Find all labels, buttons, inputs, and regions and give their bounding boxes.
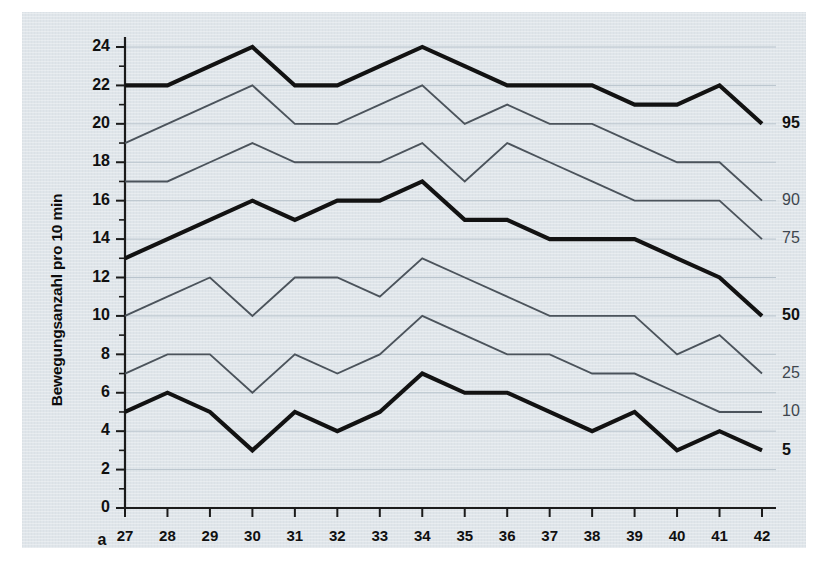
x-tick-label-41: 41 xyxy=(711,527,728,544)
x-tick-label-31: 31 xyxy=(287,527,304,544)
y-tick-label-2: 2 xyxy=(101,460,110,477)
y-tick-label-4: 4 xyxy=(101,421,110,438)
x-tick-label-40: 40 xyxy=(669,527,686,544)
series-line-p10 xyxy=(125,316,762,412)
axis-lines xyxy=(125,37,776,508)
x-axis-ticks xyxy=(125,508,762,517)
series-label-p75: 75 xyxy=(782,229,800,246)
series-line-p5 xyxy=(125,374,762,451)
x-tick-label-30: 30 xyxy=(244,527,261,544)
x-tick-label-29: 29 xyxy=(202,527,219,544)
y-tick-label-22: 22 xyxy=(92,76,110,93)
x-tick-label-38: 38 xyxy=(584,527,601,544)
series-labels: 9590755025105 xyxy=(782,114,800,458)
y-tick-label-6: 6 xyxy=(101,383,110,400)
y-axis-ticks xyxy=(116,47,125,508)
x-tick-label-35: 35 xyxy=(456,527,473,544)
series-label-p5: 5 xyxy=(782,441,791,458)
x-tick-labels: 27282930313233343536373839404142 xyxy=(117,527,771,544)
y-axis-title: Bewegungsanzahl pro 10 min xyxy=(48,194,65,407)
x-tick-label-32: 32 xyxy=(329,527,346,544)
x-tick-label-28: 28 xyxy=(159,527,176,544)
series-label-p50: 50 xyxy=(782,306,800,323)
axes xyxy=(125,37,776,508)
series-label-p90: 90 xyxy=(782,191,800,208)
y-tick-label-10: 10 xyxy=(92,306,110,323)
y-tick-label-12: 12 xyxy=(92,268,110,285)
series-label-p10: 10 xyxy=(782,402,800,419)
x-tick-label-39: 39 xyxy=(626,527,643,544)
y-tick-label-0: 0 xyxy=(101,498,110,515)
x-tick-label-33: 33 xyxy=(371,527,388,544)
y-tick-label-14: 14 xyxy=(92,229,110,246)
series-label-p25: 25 xyxy=(782,364,800,381)
line-chart: 024681012141618202224 272829303132333435… xyxy=(0,0,828,572)
x-tick-label-42: 42 xyxy=(754,527,771,544)
figure-container: 024681012141618202224 272829303132333435… xyxy=(0,0,828,572)
y-tick-label-24: 24 xyxy=(92,37,110,54)
series-label-p95: 95 xyxy=(782,114,800,131)
series-line-p50 xyxy=(125,181,762,315)
x-tick-label-37: 37 xyxy=(541,527,558,544)
x-tick-label-36: 36 xyxy=(499,527,516,544)
y-tick-label-20: 20 xyxy=(92,114,110,131)
x-tick-label-27: 27 xyxy=(117,527,134,544)
series-group xyxy=(125,47,762,450)
y-tick-label-16: 16 xyxy=(92,191,110,208)
y-tick-labels: 024681012141618202224 xyxy=(92,37,110,515)
panel-letter: a xyxy=(98,531,107,548)
x-tick-label-34: 34 xyxy=(414,527,431,544)
y-tick-label-18: 18 xyxy=(92,152,110,169)
y-tick-label-8: 8 xyxy=(101,345,110,362)
